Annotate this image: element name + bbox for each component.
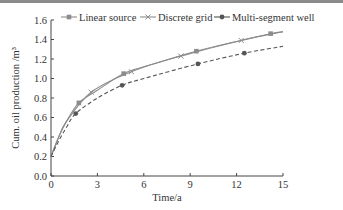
x-tick-label: 6 xyxy=(141,179,146,190)
x-tick-label: 3 xyxy=(95,179,100,190)
x-tick-label: 9 xyxy=(188,179,193,190)
linear-source-line xyxy=(51,32,283,157)
y-tick-label: 1.4 xyxy=(34,34,48,45)
y-tick-label: 1.6 xyxy=(34,15,47,26)
legend-item-multi-segment-well: Multi-segment well xyxy=(214,12,315,23)
x-tick-label: 12 xyxy=(231,179,242,190)
y-tick-label: 0.8 xyxy=(34,93,47,104)
y-tick-label: 0.6 xyxy=(34,112,47,123)
legend-item-discrete-grid: Discrete grid xyxy=(140,12,213,23)
y-tick-label: 1.2 xyxy=(34,54,47,65)
legend-label: Linear source xyxy=(79,12,137,23)
legend: Linear sourceDiscrete gridMulti-segment … xyxy=(61,12,315,23)
axes: 036912150.00.20.40.60.81.01.21.41.6 xyxy=(34,15,288,191)
multi-segment-well-line xyxy=(51,46,283,156)
chart: 036912150.00.20.40.60.81.01.21.41.6 Line… xyxy=(0,0,343,210)
multi-segment-well-marker xyxy=(242,51,247,56)
discrete-grid-line xyxy=(51,32,283,157)
y-tick-label: 1.0 xyxy=(34,73,47,84)
legend-marker xyxy=(220,15,225,20)
y-tick-label: 0.4 xyxy=(34,132,48,143)
legend-label: Multi-segment well xyxy=(232,12,315,23)
x-tick-label: 0 xyxy=(48,179,53,190)
x-tick-label: 15 xyxy=(278,179,289,190)
x-axis-label: Time/a xyxy=(152,192,182,203)
multi-segment-well-marker xyxy=(120,83,125,88)
y-tick-label: 0.0 xyxy=(34,171,47,182)
multi-segment-well-marker xyxy=(196,61,201,66)
legend-label: Discrete grid xyxy=(158,12,213,23)
plot-area xyxy=(51,31,283,156)
legend-marker xyxy=(67,15,72,20)
y-axis-label: Cum. oil production /m³ xyxy=(10,47,21,149)
y-tick-label: 0.2 xyxy=(34,151,47,162)
multi-segment-well-marker xyxy=(73,111,78,116)
legend-item-linear-source: Linear source xyxy=(61,12,137,23)
